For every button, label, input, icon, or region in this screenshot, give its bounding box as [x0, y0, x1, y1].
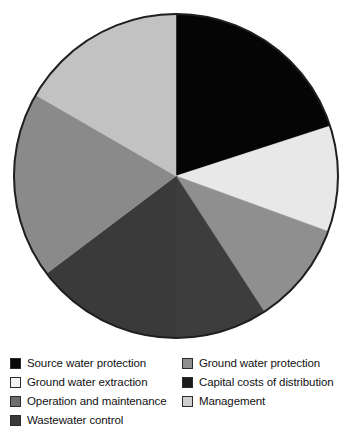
- legend-item-label: Ground water extraction: [27, 376, 147, 389]
- legend-item: Capital costs of distribution: [182, 373, 349, 392]
- legend-item-label: Management: [199, 395, 265, 408]
- chart-legend: Source water protectionGround water prot…: [0, 349, 349, 438]
- pie-slice-group: [14, 14, 338, 338]
- legend-item-label: Capital costs of distribution: [199, 376, 334, 389]
- legend-swatch: [10, 396, 21, 407]
- legend-swatch: [10, 377, 21, 388]
- legend-swatch: [10, 358, 21, 369]
- legend-item: Ground water protection: [182, 354, 349, 373]
- legend-item: Operation and maintenance: [10, 392, 182, 411]
- pie-chart-area: [0, 0, 349, 345]
- legend-grid: Source water protectionGround water prot…: [10, 354, 343, 430]
- legend-swatch: [10, 415, 21, 426]
- legend-swatch: [182, 377, 193, 388]
- legend-item-label: Wastewater control: [27, 414, 123, 427]
- legend-swatch: [182, 358, 193, 369]
- legend-item-label: Ground water protection: [199, 357, 320, 370]
- pie-chart-svg: [0, 0, 349, 345]
- legend-item: Management: [182, 392, 349, 411]
- legend-item: Source water protection: [10, 354, 182, 373]
- legend-item: [182, 411, 349, 430]
- legend-item-label: Operation and maintenance: [27, 395, 166, 408]
- legend-item: Wastewater control: [10, 411, 182, 430]
- legend-item: Ground water extraction: [10, 373, 182, 392]
- legend-item-label: Source water protection: [27, 357, 146, 370]
- legend-swatch: [182, 396, 193, 407]
